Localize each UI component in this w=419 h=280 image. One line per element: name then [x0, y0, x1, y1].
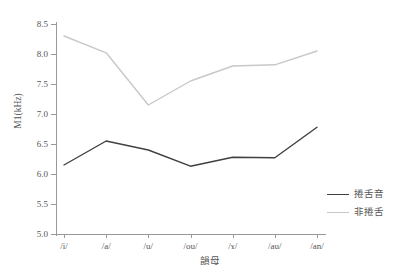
y-tick-mark — [51, 24, 56, 25]
legend-swatch-icon — [327, 194, 349, 195]
y-tick-label: 7.0 — [37, 110, 48, 119]
x-tick-label: /au/ — [268, 241, 282, 251]
y-tick-mark — [51, 114, 56, 115]
x-tick-mark — [148, 234, 149, 238]
plot-area — [57, 24, 324, 234]
x-tick-label: /a/ — [102, 241, 111, 251]
y-axis-title: M1(kHz) — [13, 71, 23, 151]
y-tick-mark — [51, 54, 56, 55]
y-tick-mark — [51, 84, 56, 85]
y-tick-label: 5.0 — [37, 230, 48, 239]
x-tick-mark — [64, 234, 65, 238]
line-chart-figure: 5.05.56.06.57.07.58.08.5 /i//a//u//ou//ɤ… — [0, 0, 419, 280]
x-tick-mark — [233, 234, 234, 238]
series-lines — [57, 24, 324, 234]
y-tick-label: 8.5 — [37, 20, 48, 29]
y-tick-label: 5.5 — [37, 200, 48, 209]
legend-item[interactable]: 捲舌音 — [327, 185, 419, 203]
legend: 捲舌音非捲舌 — [327, 185, 419, 221]
y-tick-mark — [51, 144, 56, 145]
x-tick-label: /ɤ/ — [228, 241, 237, 251]
series-line — [64, 127, 317, 166]
x-tick-mark — [106, 234, 107, 238]
series-line — [64, 36, 317, 105]
legend-item[interactable]: 非捲舌 — [327, 203, 419, 221]
x-tick-mark — [317, 234, 318, 238]
y-tick-mark — [51, 174, 56, 175]
x-tick-label: /ou/ — [183, 241, 197, 251]
y-tick-mark — [51, 234, 56, 235]
y-tick-label: 6.0 — [37, 170, 48, 179]
y-tick-label: 8.0 — [37, 50, 48, 59]
x-tick-label: /u/ — [144, 241, 154, 251]
y-tick-mark — [51, 204, 56, 205]
x-tick-mark — [191, 234, 192, 238]
legend-swatch-icon — [327, 212, 349, 213]
x-tick-label: /i/ — [60, 241, 68, 251]
y-tick-label: 7.5 — [37, 80, 48, 89]
x-tick-mark — [275, 234, 276, 238]
x-tick-label: /an/ — [310, 241, 324, 251]
x-axis-title: 韻母 — [0, 256, 419, 267]
legend-label: 非捲舌 — [354, 207, 384, 217]
legend-label: 捲舌音 — [354, 189, 384, 199]
y-tick-label: 6.5 — [37, 140, 48, 149]
